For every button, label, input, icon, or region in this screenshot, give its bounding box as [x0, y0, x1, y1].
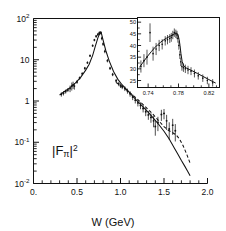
inset-y-tick-label: 45 [130, 31, 136, 37]
data-point [140, 105, 142, 107]
data-point [168, 128, 170, 130]
inset-data-point [161, 44, 163, 46]
inset-data-point [181, 66, 183, 68]
x-axis-title: W (GeV) [92, 216, 135, 228]
plot-canvas: 0.0.51.01.52.010-210-1110102 W (GeV) |Fπ… [0, 0, 226, 231]
inset-data-point [146, 56, 148, 58]
inset-data-point [170, 37, 172, 39]
data-point [115, 80, 117, 82]
inset-data-point [179, 54, 181, 56]
exponent: -1 [24, 136, 30, 143]
data-point [120, 85, 122, 87]
y-tick-label: 1 [25, 96, 30, 106]
data-point [157, 122, 159, 124]
inset-data-point [212, 82, 214, 84]
data-point [154, 126, 156, 128]
data-point [127, 90, 129, 92]
x-tick-label: 0.5 [71, 187, 83, 197]
inset-data-point [183, 67, 185, 69]
data-point [65, 91, 67, 93]
y-tick-label: 10 [20, 55, 30, 65]
inset-data-point [152, 53, 154, 55]
inset-data-point [202, 77, 204, 79]
data-point [121, 86, 123, 88]
inset-data-point [194, 73, 196, 75]
data-point [132, 96, 134, 98]
inset-data-point [174, 32, 176, 34]
data-point [153, 120, 155, 122]
inset-data-point [158, 45, 160, 47]
data-point [102, 43, 104, 45]
data-point [147, 114, 149, 116]
data-point [112, 74, 114, 76]
data-point [93, 39, 95, 41]
data-point [145, 111, 147, 113]
inset-data-point [197, 75, 199, 77]
data-point [163, 112, 165, 114]
data-point [160, 114, 162, 116]
inset-data-point [164, 40, 166, 42]
data-point [73, 85, 75, 87]
data-point [86, 62, 88, 64]
data-point [142, 107, 144, 109]
inset-data-point [149, 32, 151, 34]
data-point [124, 88, 126, 90]
inset-data-point [207, 80, 209, 82]
data-point [107, 60, 109, 62]
data-point [79, 77, 81, 79]
data-point [67, 89, 69, 91]
inset-data-point [169, 38, 171, 40]
inset-y-tick-label: 35 [130, 54, 136, 60]
inset-data-point [180, 61, 182, 63]
inset-data-point [140, 66, 142, 68]
inset-data-point [167, 39, 169, 41]
inset-x-tick-label: 0.78 [173, 90, 184, 96]
exponent: 2 [26, 12, 30, 19]
inset-y-tick-label: 25 [130, 78, 136, 84]
inset-data-point [178, 45, 180, 47]
data-point [60, 93, 62, 95]
inset-data-point [172, 34, 174, 36]
data-point [166, 120, 168, 122]
data-point [172, 124, 174, 126]
inset-data-point [190, 70, 192, 72]
inset-x-tick-label: 0.74 [143, 90, 154, 96]
inset-x-tick-label: 0.82 [203, 90, 214, 96]
inset-y-tick-label: 50 [130, 19, 136, 25]
data-point [134, 99, 136, 101]
data-point [63, 92, 65, 94]
data-point [92, 45, 94, 47]
inset-data-point [177, 38, 179, 40]
data-point [129, 93, 131, 95]
data-point [76, 81, 78, 83]
inset-data-point [187, 69, 189, 71]
data-point [95, 35, 97, 37]
data-point [150, 116, 152, 118]
inset-data-point [155, 48, 157, 50]
data-point [174, 130, 176, 132]
inset-y-tick-label: 40 [130, 43, 136, 49]
data-point [101, 37, 103, 39]
x-tick-label: 1.0 [115, 187, 127, 197]
inset-data-point [176, 34, 178, 36]
data-point [100, 32, 102, 34]
data-point [104, 50, 106, 52]
exponent: -2 [24, 177, 30, 184]
x-tick-label: 1.5 [158, 187, 170, 197]
data-point [89, 55, 91, 57]
x-tick-label: 0. [30, 187, 37, 197]
data-point [109, 67, 111, 69]
inset-data-point [143, 60, 145, 62]
inset-y-tick-label: 30 [130, 66, 136, 72]
pion-form-factor-figure: 0.0.51.01.52.010-210-1110102 W (GeV) |Fπ… [0, 0, 226, 231]
data-point [69, 88, 71, 90]
x-tick-label: 2.0 [202, 187, 214, 197]
inset-data-point [175, 33, 177, 35]
inset-data-point [185, 68, 187, 70]
data-point [118, 83, 120, 85]
data-point [84, 67, 86, 69]
data-point [137, 102, 139, 104]
data-point [81, 73, 83, 75]
